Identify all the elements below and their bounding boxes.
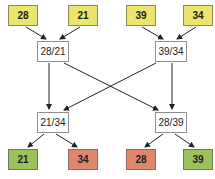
arrow-34-to-39-34: [177, 27, 196, 39]
comparator-21-34: 21/34: [37, 112, 69, 133]
output-box-39: 39: [183, 149, 213, 170]
arrow-28-39-right: [175, 134, 194, 147]
input-box-39: 39: [126, 5, 156, 26]
comparator-28-21: 28/21: [37, 41, 69, 62]
comparator-39-34: 39/34: [155, 41, 187, 62]
input-box-21: 21: [68, 5, 98, 26]
output-box-21: 21: [8, 149, 38, 170]
output-box-34: 34: [68, 149, 98, 170]
arrow-39-to-39-34: [142, 27, 163, 39]
input-box-28: 28: [8, 5, 38, 26]
input-box-34: 34: [183, 5, 213, 26]
arrow-21-to-28-21: [60, 27, 80, 39]
arrow-21-34-right: [56, 134, 77, 147]
comparator-28-39: 28/39: [155, 112, 187, 133]
arrow-21-34-left: [28, 134, 44, 147]
arrow-28-39-left: [145, 134, 163, 147]
arrow-28-to-28-21: [26, 27, 46, 39]
output-box-28: 28: [126, 149, 156, 170]
